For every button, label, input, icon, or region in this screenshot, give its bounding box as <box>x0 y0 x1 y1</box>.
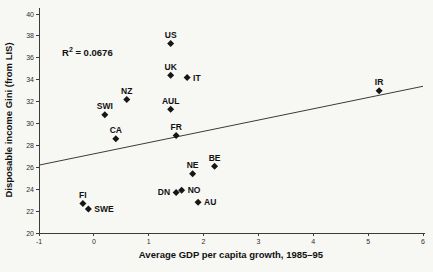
data-point-label-FI: FI <box>79 190 87 200</box>
data-point-label-NZ: NZ <box>121 86 132 96</box>
data-point-label-CA: CA <box>110 125 122 135</box>
y-tick-label: 24 <box>26 186 34 193</box>
data-point-label-SWI: SWI <box>97 101 113 111</box>
data-point-marker-AUL <box>167 106 174 113</box>
data-point-marker-SWE <box>85 205 92 212</box>
x-tick-label: 3 <box>256 238 260 245</box>
data-point-marker-NZ <box>123 96 130 103</box>
x-tick-label: 6 <box>421 238 425 245</box>
data-point-marker-SWI <box>101 111 108 118</box>
y-tick-label: 38 <box>26 32 34 39</box>
data-point-marker-FR <box>173 132 180 139</box>
data-point-label-US: US <box>165 30 177 40</box>
x-tick-label: 2 <box>202 238 206 245</box>
x-tick-label: 4 <box>311 238 315 245</box>
y-tick-label: 22 <box>26 208 34 215</box>
plot-canvas: -101234562022242628303234363840USUKITIRN… <box>0 0 433 272</box>
data-point-marker-US <box>167 40 174 47</box>
data-point-marker-CA <box>112 135 119 142</box>
x-tick-label: 0 <box>92 238 96 245</box>
y-tick-label: 20 <box>26 230 34 237</box>
data-point-marker-BE <box>211 163 218 170</box>
r-squared-annotation: R2 = 0.0676 <box>62 47 113 58</box>
scatter-chart-figure: -101234562022242628303234363840USUKITIRN… <box>0 0 433 272</box>
y-tick-label: 30 <box>26 120 34 127</box>
data-point-label-NO: NO <box>188 185 201 195</box>
data-point-label-BE: BE <box>209 153 221 163</box>
y-tick-label: 40 <box>26 11 34 18</box>
data-point-label-AUL: AUL <box>162 96 179 106</box>
y-tick-label: 34 <box>26 76 34 83</box>
y-tick-label: 32 <box>26 98 34 105</box>
y-tick-label: 28 <box>26 142 34 149</box>
data-point-marker-NE <box>189 170 196 177</box>
x-tick-label: -1 <box>36 238 42 245</box>
data-point-label-AU: AU <box>204 197 216 207</box>
x-tick-label: 5 <box>366 238 370 245</box>
data-point-label-FR: FR <box>170 122 181 132</box>
data-point-label-UK: UK <box>165 62 178 72</box>
data-point-marker-IT <box>184 74 191 81</box>
data-point-label-IR: IR <box>375 77 384 87</box>
data-point-marker-IR <box>376 87 383 94</box>
data-point-label-IT: IT <box>193 73 201 83</box>
data-point-label-DN: DN <box>158 187 170 197</box>
r-squared-base: R <box>62 47 69 58</box>
x-axis-title: Average GDP per capita growth, 1985–95 <box>39 249 423 260</box>
y-tick-label: 26 <box>26 164 34 171</box>
trend-line <box>39 86 423 165</box>
y-tick-label: 36 <box>26 54 34 61</box>
data-point-marker-FI <box>79 200 86 207</box>
y-axis-title: Disposable income Gini (from LIS) <box>3 10 15 230</box>
data-point-marker-UK <box>167 72 174 79</box>
data-point-label-NE: NE <box>187 160 199 170</box>
data-point-label-SWE: SWE <box>94 204 114 214</box>
x-tick-label: 1 <box>147 238 151 245</box>
r-squared-value: = 0.0676 <box>73 47 113 58</box>
data-point-marker-AU <box>195 199 202 206</box>
